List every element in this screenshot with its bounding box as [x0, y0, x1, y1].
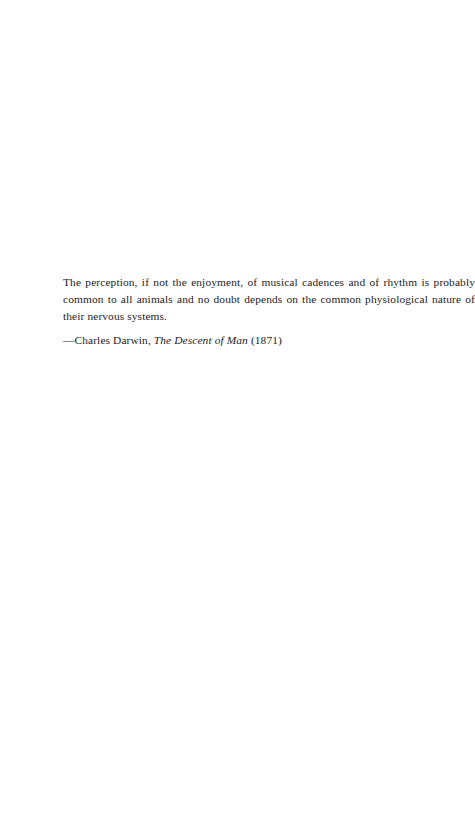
epigraph-block: The perception, if not the enjoyment, of…	[63, 274, 475, 349]
attribution-author: —Charles Darwin,	[63, 334, 154, 346]
epigraph-quote-text: The perception, if not the enjoyment, of…	[63, 274, 475, 326]
attribution-year: (1871)	[248, 334, 282, 346]
epigraph-attribution: —Charles Darwin, The Descent of Man (187…	[63, 326, 475, 349]
attribution-work-title: The Descent of Man	[154, 334, 248, 346]
